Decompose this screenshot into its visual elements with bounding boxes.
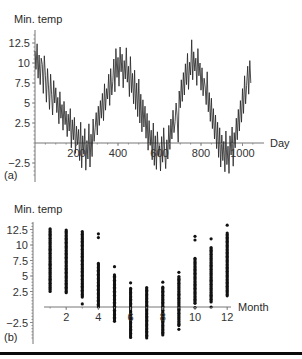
panel-b-y-tick-label: 5 [22, 270, 28, 282]
panel-b-outlier-point [97, 232, 100, 235]
panel-b-outlier-point [113, 265, 116, 268]
panel-a-y-tick-label: 7.5 [15, 77, 30, 89]
panel-b-x-axis-label: Month [238, 301, 269, 313]
panel-b-y-tick-label: −2.5 [6, 317, 28, 329]
panel-b-point [49, 227, 52, 230]
panel-a-x-tick-label: 1000 [230, 147, 254, 159]
panel-b-point [81, 230, 84, 233]
panel-b-x-tick-label: 4 [95, 311, 101, 323]
panel-a-x-tick-label: 800 [192, 147, 210, 159]
bottom-rule [0, 352, 302, 355]
panel-b-point [210, 246, 213, 249]
panel-b-y-tick-label: 10 [16, 239, 28, 251]
panel-b-point [177, 275, 180, 278]
figure: Min. temp Day (a) −2.52.557.51012.5 2004… [0, 0, 302, 359]
panel-a-label: (a) [4, 169, 17, 181]
panel-b-outlier-point [177, 328, 180, 331]
panel-b-point [97, 262, 100, 265]
panel-b-x-tick-label: 2 [63, 311, 69, 323]
panel-b-point [145, 286, 148, 289]
panel-b-outlier-point [97, 236, 100, 239]
panel-b-y-tick-label: 12.5 [7, 224, 28, 236]
panel-b-y-ticks: −2.52.557.51012.5 [6, 223, 33, 338]
panel-b-point [65, 228, 68, 231]
panel-b-y-tick-label: 2.5 [13, 286, 28, 298]
panel-a-y-tick-label: 2.5 [15, 117, 30, 129]
panel-b-outlier-point [193, 235, 196, 238]
panel-b-point [193, 257, 196, 260]
panel-b-y-axis-label: Min. temp [14, 203, 62, 215]
panel-b-outlier-point [81, 302, 84, 305]
panel-b-monthly-scatter: Min. temp Month (b) −2.52.557.51012.5 24… [4, 203, 269, 344]
panel-b-x-tick-label: 12 [221, 311, 233, 323]
panel-b-point [129, 287, 132, 290]
panel-b-point [113, 273, 116, 276]
panel-a-y-tick-label: 5 [24, 97, 30, 109]
panel-b-point [226, 232, 229, 235]
panel-b-outlier-point [226, 224, 229, 227]
panel-a-time-series: Min. temp Day (a) −2.52.557.51012.5 2004… [4, 13, 290, 182]
panel-a-x-tick-label: 400 [109, 147, 127, 159]
panel-a-x-tick-label: 600 [150, 147, 168, 159]
panel-b-outlier-point [193, 238, 196, 241]
panel-a-y-tick-label: 12.5 [9, 37, 30, 49]
panel-a-y-tick-label: −2.5 [8, 157, 30, 169]
panel-b-x-tick-label: 10 [189, 311, 201, 323]
panel-a-y-axis-label: Min. temp [14, 13, 62, 25]
panel-b-points [49, 224, 229, 340]
panel-b-outlier-point [161, 281, 164, 284]
panel-b-outlier-point [210, 237, 213, 240]
panel-b-label: (b) [4, 331, 17, 343]
panel-b-point [161, 286, 164, 289]
panel-b-x-ticks: 24681012 [50, 307, 233, 323]
panel-a-x-axis-label: Day [270, 137, 290, 149]
panel-b-x-tick-label: 6 [128, 311, 134, 323]
panel-a-y-tick-label: 10 [18, 57, 30, 69]
panel-b-outlier-point [177, 271, 180, 274]
panel-b-outlier-point [129, 281, 132, 284]
panel-a-y-ticks: −2.52.557.51012.5 [8, 35, 35, 175]
panel-a-x-tick-label: 200 [67, 147, 85, 159]
panel-b-x-tick-label: 8 [160, 311, 166, 323]
panel-b-y-tick-label: 7.5 [13, 255, 28, 267]
